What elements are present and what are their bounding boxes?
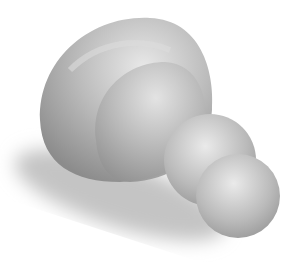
rendered-3d-object	[0, 0, 294, 262]
small-sphere-front	[196, 154, 280, 238]
